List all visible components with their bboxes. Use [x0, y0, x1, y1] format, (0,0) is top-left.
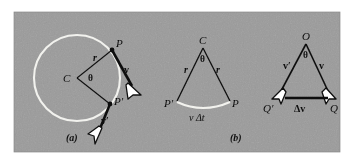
label-velocity-v-a: v — [124, 64, 129, 75]
label-angle-theta-c: θ — [303, 50, 308, 60]
label-angle-theta-a: θ — [88, 73, 93, 83]
label-delta-v: Δv — [294, 103, 305, 114]
label-radius-b-right: r — [216, 64, 220, 75]
label-vertex-q: Q — [330, 102, 338, 114]
physics-figure: C θ r P P′ v v′ (a) C θ r r P′ P v — [0, 0, 352, 166]
label-vector-v-c: v — [319, 60, 324, 71]
label-radius-b-left: r — [184, 64, 188, 75]
label-vector-v-prime-c: v′ — [283, 60, 291, 71]
label-radius-a: r — [93, 52, 97, 63]
label-point-p: P — [115, 37, 123, 49]
label-vertex-q-prime: Q′ — [263, 102, 274, 114]
figure-container: C θ r P P′ v v′ (a) C θ r r P′ P v — [0, 0, 352, 166]
label-angle-theta-b: θ — [200, 54, 205, 64]
label-velocity-v-prime-a: v′ — [101, 115, 109, 126]
label-vertex-p-prime-b: P′ — [163, 97, 174, 109]
label-vertex-p-b: P — [231, 97, 239, 109]
label-center-c: C — [63, 72, 71, 84]
caption-panel-a: (a) — [66, 132, 78, 144]
label-arc-v-delta-t: v Δt — [189, 112, 205, 123]
label-point-p-prime: P′ — [113, 95, 124, 107]
label-apex-c-b: C — [199, 34, 207, 46]
label-apex-o-c: O — [302, 30, 310, 42]
caption-panel-b: (b) — [230, 132, 242, 144]
